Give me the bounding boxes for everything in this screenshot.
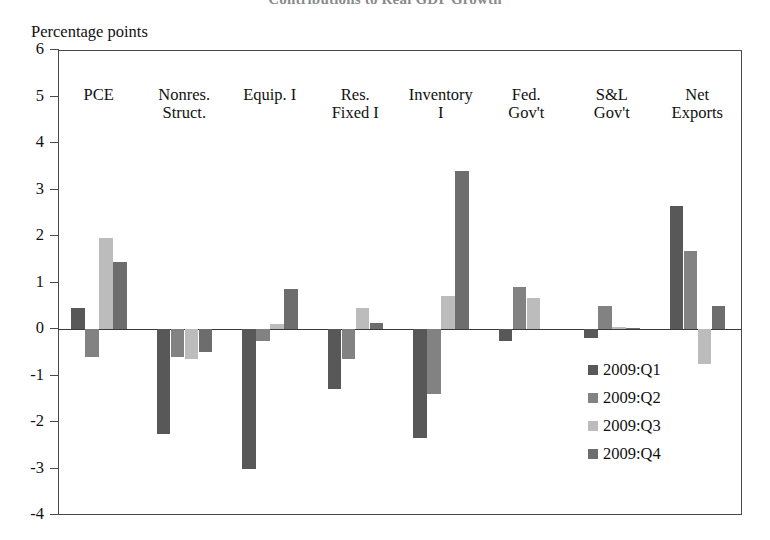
figure-title-clipped: Contributions to Real GDP Growth: [0, 0, 770, 11]
bar: [499, 329, 513, 341]
bar: [157, 329, 171, 434]
bar: [598, 306, 612, 329]
chart-legend: 2009:Q12009:Q22009:Q32009:Q4: [588, 356, 661, 468]
y-axis-tick: [50, 514, 59, 515]
y-axis-tick: [50, 49, 59, 50]
bar: [455, 171, 469, 329]
bar: [256, 329, 270, 341]
figure-title: Contributions to Real GDP Growth: [0, 0, 770, 8]
legend-swatch-icon: [588, 421, 598, 431]
legend-label: 2009:Q1: [603, 362, 661, 379]
bar: [185, 329, 199, 359]
bar: [684, 251, 698, 329]
bar: [612, 327, 626, 329]
bar: [85, 329, 99, 357]
bar: [342, 329, 356, 359]
bar: [270, 324, 284, 329]
y-axis-tick-label: 2: [14, 227, 44, 244]
y-axis-tick: [50, 235, 59, 236]
chart-figure: Contributions to Real GDP Growth Percent…: [0, 0, 770, 540]
bar: [199, 329, 213, 352]
bar: [712, 306, 726, 329]
y-axis-tick-label: 1: [14, 274, 44, 291]
bar: [113, 262, 127, 329]
bar: [370, 323, 384, 329]
bar: [356, 308, 370, 329]
bar: [99, 238, 113, 329]
legend-item[interactable]: 2009:Q2: [588, 384, 661, 412]
legend-swatch-icon: [588, 449, 598, 459]
legend-item[interactable]: 2009:Q3: [588, 412, 661, 440]
y-axis-tick-label: 6: [14, 41, 44, 58]
legend-label: 2009:Q3: [603, 418, 661, 435]
legend-swatch-icon: [588, 393, 598, 403]
y-axis-tick: [50, 421, 59, 422]
y-axis-tick-label: -1: [14, 367, 44, 384]
y-axis-tick-label: -3: [14, 460, 44, 477]
y-axis-tick-label: -2: [14, 413, 44, 430]
bar: [513, 287, 527, 329]
y-axis-unit-label: Percentage points: [31, 22, 148, 42]
bar: [413, 329, 427, 438]
bar: [328, 329, 342, 389]
y-axis-tick: [50, 282, 59, 283]
bar: [584, 329, 598, 338]
category-label: NetExports: [637, 86, 757, 122]
bar: [441, 296, 455, 329]
y-axis-tick: [50, 189, 59, 190]
bar: [626, 328, 640, 329]
legend-item[interactable]: 2009:Q1: [588, 356, 661, 384]
y-axis-tick: [50, 468, 59, 469]
legend-item[interactable]: 2009:Q4: [588, 440, 661, 468]
bar: [527, 298, 541, 329]
y-axis-tick-label: -4: [14, 506, 44, 523]
category-label-line: Struct.: [124, 104, 244, 122]
bar: [71, 308, 85, 329]
y-axis-tick-label: 4: [14, 134, 44, 151]
category-label-line: Net: [637, 86, 757, 104]
bar: [242, 329, 256, 469]
bar: [427, 329, 441, 394]
category-label-line: Exports: [637, 104, 757, 122]
legend-swatch-icon: [588, 365, 598, 375]
y-axis-tick-label: 0: [14, 320, 44, 337]
y-axis-tick: [50, 142, 59, 143]
legend-label: 2009:Q2: [603, 390, 661, 407]
y-axis-tick: [50, 375, 59, 376]
bar: [670, 206, 684, 329]
bar: [284, 289, 298, 329]
bar: [171, 329, 185, 357]
y-axis-tick-label: 3: [14, 181, 44, 198]
bar: [698, 329, 712, 364]
legend-label: 2009:Q4: [603, 446, 661, 463]
